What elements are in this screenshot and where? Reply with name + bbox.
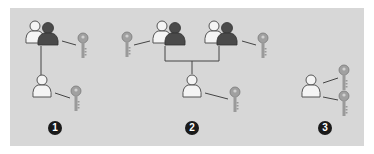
key-icon: [339, 65, 349, 90]
key-icon: [339, 91, 349, 116]
connector-line: [134, 41, 150, 45]
connector-line: [205, 93, 228, 99]
key-icon: [258, 33, 268, 58]
key-icon: [78, 33, 88, 58]
key-icon: [230, 87, 240, 112]
scenario-badge-2: 2: [185, 121, 199, 135]
bracket-connector: [165, 46, 219, 74]
key-icon: [122, 32, 132, 57]
scenario-1: [26, 21, 88, 111]
scenario-3: [302, 65, 349, 116]
connector-line: [323, 78, 338, 83]
connector-line: [242, 41, 256, 45]
user-group-icon: [153, 21, 185, 45]
scenario-2: [122, 21, 268, 112]
user-icon: [33, 75, 51, 97]
connector-line: [62, 41, 76, 45]
key-icon: [71, 86, 81, 111]
connector-line: [55, 93, 70, 98]
user-icon: [183, 75, 201, 97]
connector-line: [323, 97, 338, 100]
user-icon: [302, 75, 320, 97]
user-group-icon: [26, 21, 58, 45]
scenario-badge-3: 3: [318, 121, 332, 135]
scenario-badge-1: 1: [48, 121, 62, 135]
user-group-icon: [205, 21, 237, 45]
